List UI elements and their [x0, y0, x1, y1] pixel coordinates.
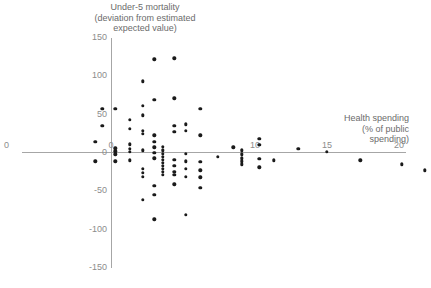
data-point: [141, 80, 144, 83]
data-point: [325, 150, 328, 153]
data-point: [173, 130, 176, 133]
data-point: [184, 213, 187, 216]
data-point: [258, 137, 261, 140]
plot-area: [0, 0, 431, 288]
data-point: [152, 133, 155, 136]
data-point: [199, 107, 202, 110]
data-point: [93, 159, 96, 162]
data-point: [152, 193, 155, 196]
data-point: [173, 164, 176, 167]
data-point: [173, 124, 176, 127]
data-point: [93, 140, 96, 143]
data-point: [128, 150, 131, 153]
data-point: [173, 173, 176, 176]
data-point: [128, 127, 131, 130]
data-point: [141, 104, 144, 107]
data-point: [358, 159, 361, 162]
data-point: [101, 124, 104, 127]
scatter-chart: Under-5 mortality (deviation from estima…: [0, 0, 431, 288]
data-point: [128, 159, 131, 162]
data-point: [152, 151, 155, 154]
data-point: [240, 163, 243, 166]
data-point: [258, 166, 261, 169]
data-point: [173, 57, 176, 60]
data-point: [216, 155, 219, 158]
data-point: [423, 169, 426, 172]
data-point: [173, 97, 176, 100]
data-point: [272, 159, 275, 162]
data-point: [258, 143, 261, 146]
data-point: [101, 107, 104, 110]
data-point: [173, 182, 176, 185]
data-point: [184, 152, 187, 155]
data-point: [128, 143, 131, 146]
data-point: [152, 58, 155, 61]
data-point: [114, 159, 117, 162]
data-point: [199, 133, 202, 136]
data-point: [141, 198, 144, 201]
data-point: [152, 218, 155, 221]
data-point: [141, 149, 144, 152]
data-point: [152, 146, 155, 149]
data-point: [232, 146, 235, 149]
data-point: [199, 186, 202, 189]
data-point: [184, 175, 187, 178]
data-point: [173, 158, 176, 161]
data-point: [152, 98, 155, 101]
data-point: [161, 173, 164, 176]
data-point: [296, 147, 299, 150]
data-point: [114, 107, 117, 110]
data-point: [258, 157, 261, 160]
data-point: [141, 175, 144, 178]
data-point: [199, 160, 202, 163]
data-point: [400, 163, 403, 166]
data-point: [184, 167, 187, 170]
data-point: [184, 123, 187, 126]
data-point: [184, 159, 187, 162]
data-point: [152, 156, 155, 159]
data-point: [199, 176, 202, 179]
data-point: [199, 169, 202, 172]
data-point: [152, 184, 155, 187]
data-point: [152, 140, 155, 143]
data-point: [184, 129, 187, 132]
data-point: [128, 118, 131, 121]
data-point: [141, 113, 144, 116]
data-point: [114, 153, 117, 156]
data-point: [141, 132, 144, 135]
